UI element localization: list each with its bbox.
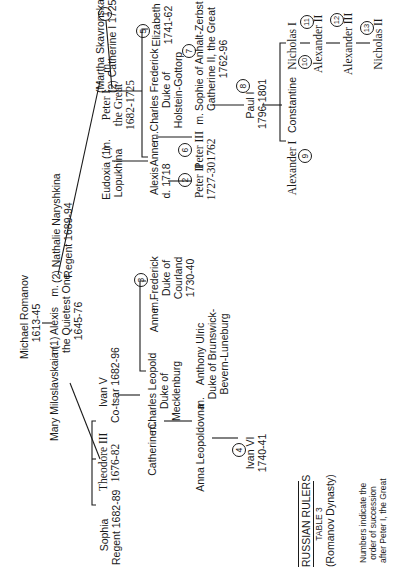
marriage-symbol: m. xyxy=(48,285,60,297)
legend-title: RUSSIAN RULERS xyxy=(298,481,314,567)
succession-badge-12: 12 xyxy=(330,13,344,27)
dates: 1682-1725 xyxy=(124,77,136,133)
name: Eudoxia (1) xyxy=(100,145,112,201)
succession-badge-3: 3 xyxy=(134,273,148,287)
legend-table: TABLE 3 xyxy=(314,481,324,567)
person-anne-daughter: Anne xyxy=(148,139,160,169)
name: Charles Frederick xyxy=(148,45,160,135)
succession-badge-13: 13 xyxy=(360,21,374,35)
name: Sophia xyxy=(98,505,110,565)
person-nathalie-naryshkina: (2) Nathalie Naryshkina Regent 1689-94 xyxy=(50,197,74,283)
person-ivan-vi: Ivan VI 1740-41 xyxy=(244,433,268,473)
succession-badge-7: 7 xyxy=(182,44,196,58)
person-charles-frederick: Charles Frederick Duke of Holstein-Gotto… xyxy=(148,45,184,135)
person-constantine: Constantine xyxy=(286,77,298,133)
title: Duke of xyxy=(160,253,172,303)
dates: 1613-45 xyxy=(30,287,42,359)
person-anthony-ulric: Anthony Ulric Duke of Brunswick- Bevern-… xyxy=(194,307,230,401)
person-alexander-iii: Alexander III xyxy=(342,13,354,75)
succession-badge-2: 2 xyxy=(178,173,192,187)
genealogy-chart: Michael Romanov 1613-45 Mary Miloslavska… xyxy=(0,0,404,581)
succession-badge-5: 5 xyxy=(136,24,150,38)
person-alexis: Alexis the Quietest One 1645-76 xyxy=(48,289,84,353)
note-line: Numbers indicate the xyxy=(358,483,368,563)
person-elizabeth: Elizabeth 1741-62 xyxy=(150,3,174,47)
name: Ivan V xyxy=(97,361,109,423)
dates: 1762-96 xyxy=(217,7,229,111)
marriage-symbol: m. xyxy=(100,139,112,151)
title: Duke of xyxy=(160,45,172,135)
title: Duke of xyxy=(158,351,170,431)
person-charles-leopold: Charles Leopold Duke of Mecklenburg xyxy=(146,351,182,431)
legend: RUSSIAN RULERS TABLE 3 (Romanov Dynasty) xyxy=(298,481,336,567)
person-frederick-courland: Frederick Duke of Courland 1730-40 xyxy=(148,253,196,303)
dates: 1730-40 xyxy=(184,253,196,303)
name: Charles Leopold xyxy=(146,351,158,431)
succession-badge-9: 9 xyxy=(298,149,312,163)
dates: Regent 1682-89 xyxy=(110,505,122,565)
legend-note: Numbers indicate the order of succession… xyxy=(358,483,388,563)
person-mary-miloslavskaia: Mary Miloslavskaia (1) xyxy=(48,353,60,441)
person-ivan-v: Ivan V Co-tsar 1682-96 xyxy=(97,361,121,423)
reign-name: Catherine II, the Great xyxy=(205,7,217,111)
name: Ivan VI xyxy=(244,433,256,473)
marriage-symbol: m. xyxy=(193,113,205,125)
person-catherine-ivanovna: Catherine xyxy=(146,425,158,481)
house: Holstein-Gottorp xyxy=(172,45,184,135)
house: Bevern-Luneburg xyxy=(218,307,230,401)
succession-badge-11: 11 xyxy=(300,15,314,29)
succession-badge-10: 10 xyxy=(298,55,312,69)
person-theodore-iii: Theodore III 1676-82 xyxy=(97,435,121,491)
name: Mary Miloslavskaia (1) xyxy=(48,353,60,441)
name: Theodore III xyxy=(97,435,109,491)
dates: 1741-62 xyxy=(162,3,174,47)
person-peter-iii: Peter III 1762 xyxy=(193,125,217,175)
dates: 1676-82 xyxy=(109,435,121,491)
note-line: after Peter I, the Great xyxy=(378,483,388,563)
dates: 1762 xyxy=(205,125,217,175)
maiden-name: Lopukhina xyxy=(112,145,124,201)
person-sophie-catherine-ii: Sophie of Anhalt-Zerbst Catherine II, th… xyxy=(193,7,229,111)
dates: Co-tsar 1682-96 xyxy=(109,361,121,423)
name: Michael Romanov xyxy=(18,287,30,359)
succession-badge-8: 8 xyxy=(236,79,250,93)
dates: 1645-76 xyxy=(72,289,84,353)
epithet: the Quietest One xyxy=(60,289,72,353)
name: Elizabeth xyxy=(150,3,162,47)
person-nicholas-ii: Nicholas II xyxy=(372,17,384,71)
succession-badge-1: 1 xyxy=(98,7,112,21)
duchy: Courland xyxy=(172,253,184,303)
name: (2) Nathalie Naryshkina xyxy=(50,197,62,283)
name: Sophie of Anhalt-Zerbst xyxy=(193,7,205,111)
legend-dynasty: (Romanov Dynasty) xyxy=(324,481,336,567)
person-anna-leopoldovna: Anna Leopoldovna xyxy=(194,403,206,493)
name: Anthony Ulric xyxy=(194,307,206,401)
person-michael-romanov: Michael Romanov 1613-45 xyxy=(18,287,42,359)
person-eudoxia-lopukhina: Eudoxia (1) Lopukhina xyxy=(100,145,124,201)
dates: d. 1718 xyxy=(160,159,172,203)
duchy: Mecklenburg xyxy=(170,351,182,431)
name: Peter III xyxy=(193,125,205,175)
note-line: order of succession xyxy=(368,483,378,563)
dates: 1740-41 xyxy=(256,433,268,473)
dates: 1796-1801 xyxy=(256,81,268,129)
succession-badge-6: 6 xyxy=(178,143,192,157)
person-alexander-ii: Alexander II xyxy=(312,15,324,73)
person-sophia: Sophia Regent 1682-89 xyxy=(98,505,122,565)
dates: Regent 1689-94 xyxy=(62,197,74,283)
name: Alexis xyxy=(48,289,60,353)
name: Frederick xyxy=(148,253,160,303)
title: Duke of Brunswick- xyxy=(206,307,218,401)
person-alexander-i: Alexander I xyxy=(286,139,298,197)
person-nicholas-i: Nicholas I xyxy=(286,19,298,73)
